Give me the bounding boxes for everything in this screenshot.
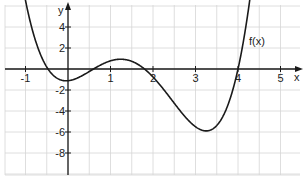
grid (5, 5, 300, 175)
y-tick-label: -2 (55, 84, 65, 96)
curve-label: f(x) (249, 35, 265, 47)
y-axis-label: y (58, 4, 64, 16)
y-tick-label: -8 (55, 147, 65, 159)
axes (5, 2, 303, 175)
x-tick-label: 5 (277, 72, 283, 84)
y-tick-label: 2 (59, 42, 65, 54)
y-tick-label: -4 (55, 105, 65, 117)
function-graph: -11234542-2-4-6-8 f(x) x y (0, 0, 304, 180)
x-tick-label: 3 (192, 72, 198, 84)
y-tick-label: -6 (55, 126, 65, 138)
x-tick-label: -1 (21, 72, 31, 84)
x-tick-label: 1 (107, 72, 113, 84)
x-axis-label: x (294, 71, 300, 83)
y-tick-label: 4 (59, 21, 65, 33)
